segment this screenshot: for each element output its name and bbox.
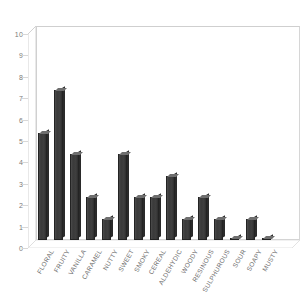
y-axis: 012345678910 (0, 26, 28, 248)
bar-top-face (119, 152, 131, 155)
bar-top-face (199, 195, 211, 198)
bar (102, 219, 113, 240)
bar-front-face (54, 90, 63, 240)
bar-front-face (38, 133, 47, 240)
bar (70, 154, 81, 240)
bar (166, 176, 177, 240)
bar-front-face (134, 197, 143, 240)
bar-front-face (86, 197, 95, 240)
bar-top-face (231, 236, 243, 239)
bar-top-face (103, 217, 115, 220)
plot-floor-face (28, 239, 300, 248)
bar (182, 219, 193, 240)
x-axis-category-label: FLORAL (35, 248, 55, 275)
y-axis-tick-mark (22, 248, 28, 249)
bar (262, 238, 273, 241)
bar-top-face (183, 217, 195, 220)
bar-front-face (182, 219, 191, 240)
bar (86, 197, 97, 240)
bar-top-face (55, 88, 67, 91)
x-axis-category-label: MUSTY (261, 248, 279, 273)
bar (214, 219, 225, 240)
bar (134, 197, 145, 240)
bar-front-face (246, 219, 255, 240)
bar (198, 197, 209, 240)
bar-top-face (151, 195, 163, 198)
bar-front-face (150, 197, 159, 240)
bar-top-face (135, 195, 147, 198)
bar-top-face (87, 195, 99, 198)
bar (150, 197, 161, 240)
bar-front-face (214, 219, 223, 240)
bars-layer (36, 26, 300, 240)
bar (230, 238, 241, 241)
bar-front-face (166, 176, 175, 240)
bar (246, 219, 257, 240)
x-axis-labels: FLORALFRUITYVANILLACARAMELNUTTYSWEETSMOK… (36, 248, 308, 308)
bar-top-face (167, 174, 179, 177)
bar-front-face (118, 154, 127, 240)
bar-top-face (39, 131, 51, 134)
bar (118, 154, 129, 240)
bar-top-face (263, 236, 275, 239)
bar (38, 133, 49, 240)
bar-front-face (70, 154, 79, 240)
bar-front-face (198, 197, 207, 240)
bar-top-face (247, 217, 259, 220)
bar-top-face (215, 217, 227, 220)
bar-top-face (71, 152, 83, 155)
bar (54, 90, 65, 240)
x-axis-category-label: SOUR (231, 248, 247, 269)
bar-front-face (102, 219, 111, 240)
bar-chart: 012345678910 FLORALFRUITYVANILLACARAMELN… (0, 0, 308, 308)
